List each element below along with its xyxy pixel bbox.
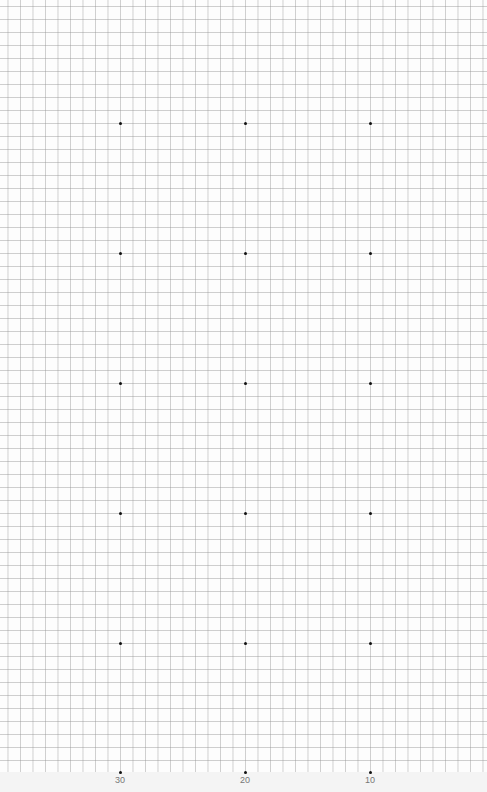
axis-label-20: 20 [240,775,250,785]
grid-dot [119,122,122,125]
grid-dot [244,512,247,515]
grid-dot [119,512,122,515]
grid-dot [369,382,372,385]
grid-dot [244,771,247,774]
grid-dot [244,642,247,645]
grid-dot [119,771,122,774]
grid-dot [119,642,122,645]
grid-dot [119,252,122,255]
grid-dot [369,642,372,645]
grid-dot [119,382,122,385]
grid-paper [0,0,487,772]
grid-dot [244,252,247,255]
grid-dot [369,252,372,255]
grid-dot [369,122,372,125]
axis-label-30: 30 [115,775,125,785]
grid-dot [369,771,372,774]
grid-dot [244,382,247,385]
grid-dot [244,122,247,125]
axis-label-10: 10 [365,775,375,785]
grid-dot [369,512,372,515]
